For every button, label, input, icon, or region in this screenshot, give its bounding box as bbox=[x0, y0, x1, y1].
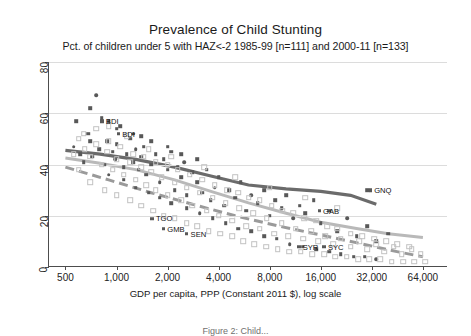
fit-line bbox=[65, 150, 376, 204]
data-point bbox=[229, 218, 235, 224]
data-point bbox=[190, 203, 196, 209]
data-point bbox=[139, 135, 143, 139]
data-point bbox=[165, 192, 171, 198]
data-point bbox=[399, 251, 405, 257]
data-point bbox=[184, 221, 190, 227]
data-point bbox=[412, 259, 418, 265]
data-point bbox=[246, 195, 252, 201]
chart-figure: Prevalence of Child Stunting Pct. of chi… bbox=[0, 0, 471, 336]
point-label-bdi: BDI bbox=[100, 116, 118, 126]
chart-subtitle: Pct. of children under 5 with HAZ<-2 198… bbox=[0, 40, 471, 52]
data-point bbox=[78, 152, 82, 156]
data-point bbox=[86, 132, 90, 136]
data-point bbox=[348, 231, 354, 237]
data-point bbox=[356, 257, 362, 263]
data-point bbox=[367, 257, 373, 263]
data-point bbox=[202, 164, 208, 170]
data-point bbox=[199, 177, 205, 183]
x-tick-mark bbox=[168, 266, 169, 270]
data-point bbox=[384, 239, 390, 245]
data-point bbox=[127, 159, 133, 165]
data-point bbox=[241, 239, 247, 245]
data-point bbox=[229, 233, 235, 239]
data-point bbox=[211, 217, 215, 221]
data-point bbox=[243, 223, 249, 229]
point-label-text: TGO bbox=[156, 214, 172, 223]
data-point bbox=[218, 231, 224, 237]
point-label-text: SEN bbox=[191, 229, 207, 238]
data-point bbox=[333, 254, 339, 260]
data-point bbox=[262, 188, 266, 192]
data-point bbox=[250, 210, 256, 216]
data-point bbox=[280, 208, 286, 214]
data-point bbox=[102, 187, 108, 193]
data-point bbox=[386, 232, 390, 236]
data-point bbox=[166, 168, 170, 172]
point-label-marker bbox=[185, 232, 188, 235]
x-tick-label: 500 bbox=[57, 272, 74, 283]
point-label-bdi: BDI bbox=[117, 129, 135, 139]
data-point bbox=[334, 226, 340, 232]
point-label-marker bbox=[297, 245, 300, 248]
data-point bbox=[134, 186, 138, 190]
data-point bbox=[378, 257, 384, 263]
data-point bbox=[148, 169, 154, 175]
data-point bbox=[107, 173, 111, 177]
data-point bbox=[325, 223, 331, 229]
data-point bbox=[130, 151, 136, 157]
data-point bbox=[400, 259, 406, 265]
data-point bbox=[165, 162, 171, 168]
data-point bbox=[125, 152, 129, 156]
y-tick-label: 60 bbox=[39, 113, 50, 124]
data-point bbox=[141, 154, 147, 160]
data-point bbox=[275, 237, 279, 241]
data-point bbox=[196, 158, 200, 162]
data-point bbox=[286, 249, 292, 255]
data-point bbox=[302, 216, 308, 222]
data-point bbox=[249, 229, 253, 233]
data-point bbox=[321, 251, 327, 257]
x-tick-mark bbox=[321, 266, 322, 270]
plot-area: 0204060805001,0002,0004,0008,00016,00032… bbox=[48, 62, 447, 267]
y-tick-label: 20 bbox=[39, 216, 50, 227]
y-tick-label: 0 bbox=[39, 267, 50, 273]
data-point bbox=[279, 221, 285, 227]
x-tick-label: 2,000 bbox=[155, 272, 180, 283]
data-point bbox=[310, 251, 316, 257]
point-label-marker bbox=[100, 119, 103, 122]
data-point bbox=[389, 259, 395, 265]
data-point bbox=[322, 233, 328, 239]
point-label-text: GNQ bbox=[374, 186, 391, 195]
point-label-marker bbox=[117, 132, 120, 135]
data-point bbox=[106, 139, 112, 145]
data-point bbox=[224, 222, 228, 226]
y-tick-label: 80 bbox=[39, 62, 50, 73]
data-point bbox=[173, 188, 177, 192]
data-point bbox=[146, 146, 152, 152]
data-point bbox=[154, 152, 158, 156]
data-point bbox=[172, 216, 178, 222]
data-point bbox=[373, 241, 379, 247]
x-tick-mark bbox=[423, 266, 424, 270]
data-point bbox=[267, 185, 273, 191]
data-point bbox=[76, 136, 82, 142]
data-point bbox=[153, 159, 159, 165]
data-point bbox=[365, 224, 369, 228]
x-tick-label: 16,000 bbox=[305, 272, 336, 283]
data-point bbox=[382, 249, 388, 255]
x-axis-label: GDP per capita, PPP (Constant 2011 $), l… bbox=[0, 288, 471, 299]
data-point bbox=[204, 208, 210, 214]
x-tick-label: 4,000 bbox=[206, 272, 231, 283]
x-tick-label: 32,000 bbox=[357, 272, 388, 283]
data-point bbox=[252, 241, 258, 247]
gridline bbox=[49, 113, 447, 114]
data-point bbox=[158, 181, 162, 185]
data-point bbox=[371, 236, 377, 242]
data-point bbox=[138, 203, 144, 209]
data-point bbox=[212, 182, 218, 188]
point-label-text: BDI bbox=[106, 117, 119, 126]
data-point bbox=[81, 131, 87, 137]
chart-title: Prevalence of Child Stunting bbox=[0, 22, 471, 37]
x-tick-mark bbox=[219, 266, 220, 270]
data-point bbox=[110, 167, 116, 173]
